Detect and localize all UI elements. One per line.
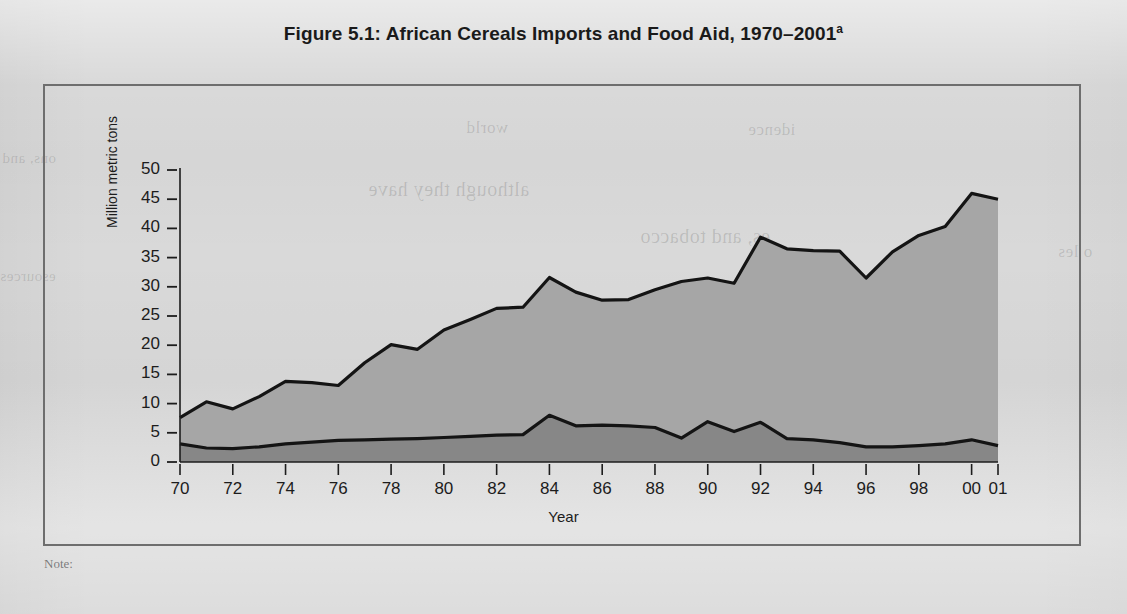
y-axis-tick-label: 10 — [105, 393, 160, 413]
chart-frame-border — [43, 84, 1081, 546]
x-axis-tick-label: 90 — [688, 479, 728, 499]
figure-title-footnote-marker: a — [836, 22, 843, 36]
x-axis-tick-label: 01 — [978, 479, 1018, 499]
y-axis-title: Million metric tons — [104, 116, 120, 228]
y-axis-tick-label: 25 — [105, 305, 160, 325]
x-axis-tick-label: 98 — [899, 479, 939, 499]
x-axis-tick-label: 78 — [371, 479, 411, 499]
x-axis-tick-label: 72 — [213, 479, 253, 499]
x-axis-tick-label: 82 — [477, 479, 517, 499]
x-axis-tick-label: 74 — [266, 479, 306, 499]
y-axis-tick-label: 35 — [105, 247, 160, 267]
x-axis-tick-label: 80 — [424, 479, 464, 499]
figure-title-text: Figure 5.1: African Cereals Imports and … — [284, 23, 837, 44]
x-axis-tick-label: 88 — [635, 479, 675, 499]
x-axis-tick-label: 96 — [846, 479, 886, 499]
x-axis-tick-label: 84 — [529, 479, 569, 499]
x-axis-tick-label: 94 — [793, 479, 833, 499]
y-axis-tick-label: 15 — [105, 363, 160, 383]
y-axis-tick-label: 5 — [105, 422, 160, 442]
x-axis-tick-label: 92 — [741, 479, 781, 499]
x-axis-tick-label: 70 — [160, 479, 200, 499]
x-axis-title: Year — [0, 508, 1127, 525]
note-label: Note: — [44, 556, 73, 572]
y-axis-tick-label: 0 — [105, 451, 160, 471]
x-axis-tick-label: 86 — [582, 479, 622, 499]
y-axis-tick-label: 20 — [105, 334, 160, 354]
y-axis-tick-label: 30 — [105, 276, 160, 296]
figure-title: Figure 5.1: African Cereals Imports and … — [0, 22, 1127, 45]
x-axis-tick-label: 76 — [318, 479, 358, 499]
